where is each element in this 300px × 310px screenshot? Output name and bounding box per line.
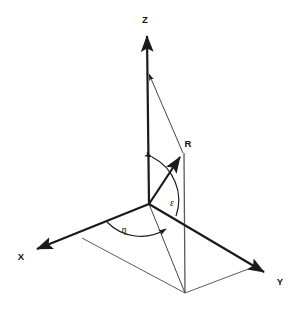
epsilon-angle-label: ε <box>170 197 174 208</box>
eta-angle-label: η <box>122 224 127 235</box>
construction-line-z-to-r <box>149 74 183 153</box>
construction-line-ground-projection <box>149 204 185 293</box>
z-axis-label: Z <box>142 14 148 25</box>
coordinate-diagram: Z X Y R ε η <box>0 0 300 310</box>
construction-line-r-drop <box>184 153 185 293</box>
coordinate-diagram-svg: Z X Y R ε η <box>0 0 300 310</box>
x-axis-label: X <box>18 251 25 262</box>
y-axis-label: Y <box>277 276 284 287</box>
r-vector-label: R <box>185 138 192 149</box>
y-axis <box>149 204 264 272</box>
r-vector <box>149 157 180 204</box>
z-axis <box>147 36 149 204</box>
x-axis <box>37 204 149 249</box>
